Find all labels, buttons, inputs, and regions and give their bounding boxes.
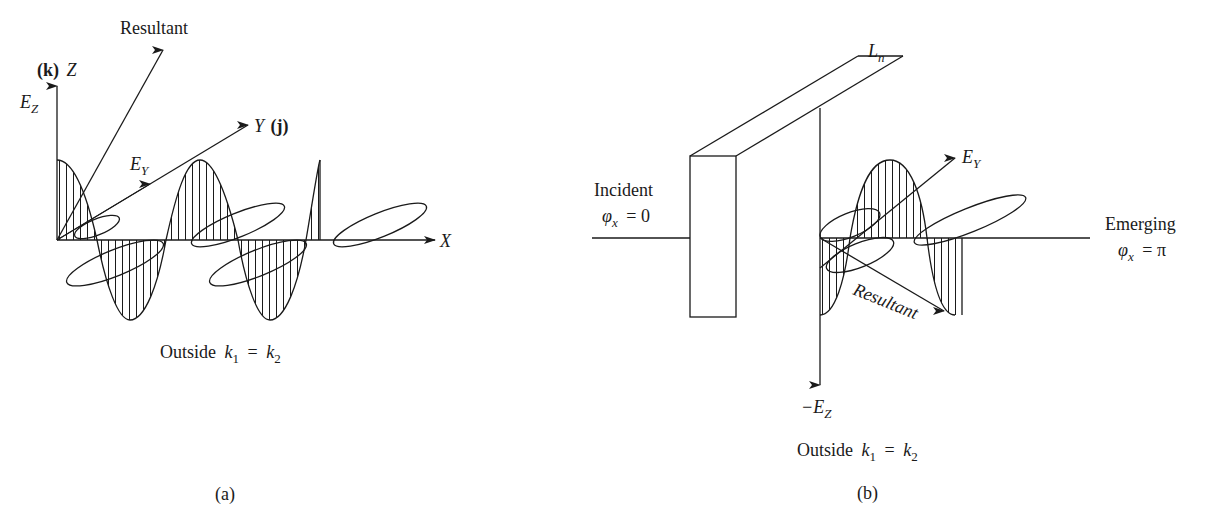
subtitle-b: Outside k1 = k2: [797, 440, 918, 465]
subtitle-a: Outside k1 = k2: [160, 342, 281, 367]
y-axis-label-a: Y (j): [254, 116, 289, 137]
wave-polarization-figure: Resultant (k) Z EZ EY Y (j) X Outside k1…: [0, 0, 1217, 528]
x-axis-label-a: X: [439, 231, 452, 251]
emerging-phi: φx = π: [1118, 240, 1166, 265]
ey-label-b: EY: [961, 147, 982, 171]
z-axis-label-a: (k) Z: [37, 60, 78, 81]
caption-a: (a): [215, 484, 235, 505]
resultant-label-a: Resultant: [120, 18, 188, 38]
caption-b: (b): [857, 483, 878, 504]
incident-phi: φx = 0: [602, 206, 650, 231]
ey-label-a: EY: [129, 154, 150, 178]
ez-label-a: EZ: [19, 92, 39, 116]
panel-b: Ln Incident φx = 0 EY Emerging φx = π Re…: [592, 41, 1176, 504]
emerging-label: Emerging: [1105, 214, 1176, 234]
neg-ez-label: −EZ: [801, 397, 832, 421]
panel-a: Resultant (k) Z EZ EY Y (j) X Outside k1…: [19, 18, 452, 505]
incident-label: Incident: [594, 180, 653, 200]
resultant-label-b: Resultant: [850, 279, 922, 324]
ln-label: Ln: [867, 41, 885, 65]
